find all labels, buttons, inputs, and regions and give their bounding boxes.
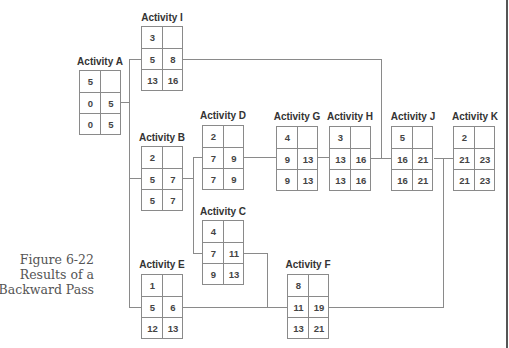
activity-a-label: Activity A: [70, 56, 130, 67]
early-finish: 6: [162, 296, 183, 317]
activity-b-label: Activity B: [132, 132, 192, 143]
activity-c-node: 4 7 11 9 13: [202, 220, 244, 285]
activity-f-label: Activity F: [278, 259, 338, 270]
late-finish: 7: [162, 189, 183, 210]
late-start: 0: [80, 113, 101, 134]
activity-g-node: 4 9 13 9 13: [276, 126, 318, 191]
early-start: 21: [454, 148, 475, 169]
late-finish: 5: [100, 113, 121, 134]
activity-j-label: Activity J: [383, 111, 443, 122]
blank-cell: [297, 127, 318, 148]
late-finish: 23: [474, 169, 495, 190]
connector-to-e: [129, 307, 141, 308]
connector-g-to-h: [318, 157, 329, 158]
connector-c-out: [244, 253, 267, 254]
duration: 3: [142, 27, 163, 48]
late-finish: 13: [162, 317, 183, 338]
connector-a-vertical: [129, 59, 130, 308]
activity-g-label: Activity G: [267, 111, 327, 122]
activity-k-label: Activity K: [445, 111, 505, 122]
blank-cell: [162, 27, 183, 48]
duration: 3: [330, 127, 351, 148]
late-start: 13: [142, 69, 163, 90]
late-finish: 13: [223, 263, 244, 284]
figure-caption: Figure 6-22 Results of a Backward Pass: [0, 252, 94, 297]
early-start: 5: [142, 296, 163, 317]
connector-c-vertical: [267, 253, 268, 308]
duration: 2: [203, 126, 224, 147]
caption-figure-number: Figure 6-22: [0, 252, 94, 267]
activity-c-label: Activity C: [193, 206, 253, 217]
late-start: 9: [277, 169, 298, 190]
early-finish: 11: [223, 242, 244, 263]
late-finish: 16: [162, 69, 183, 90]
late-start: 16: [392, 169, 413, 190]
connector-to-b: [129, 178, 141, 179]
early-finish: 7: [162, 168, 183, 189]
late-finish: 16: [350, 169, 371, 190]
connector-b-trunk: [183, 178, 193, 179]
activity-e-node: 1 5 6 12 13: [141, 274, 183, 339]
connector-a-trunk: [121, 102, 129, 103]
duration: 8: [288, 275, 309, 296]
early-start: 13: [330, 148, 351, 169]
late-start: 7: [203, 168, 224, 189]
early-finish: 13: [297, 148, 318, 169]
late-start: 9: [203, 263, 224, 284]
duration: 2: [142, 147, 163, 168]
early-finish: 5: [100, 92, 121, 113]
activity-e-label: Activity E: [132, 259, 192, 270]
activity-b-node: 2 5 7 5 7: [141, 146, 183, 211]
early-finish: 19: [308, 296, 329, 317]
connector-to-i: [129, 59, 141, 60]
page-edge-divider: [506, 0, 508, 348]
early-finish: 8: [162, 48, 183, 69]
connector-h-to-j: [371, 158, 391, 159]
early-start: 7: [203, 147, 224, 168]
late-start: 5: [142, 189, 163, 210]
activity-k-node: 2 21 23 21 23: [453, 126, 495, 191]
blank-cell: [474, 127, 495, 148]
early-start: 16: [392, 148, 413, 169]
early-start: 5: [142, 48, 163, 69]
network-diagram: Activity A 5 0 5 0 5 Activity I 3 5 8 13…: [0, 0, 509, 348]
early-finish: 9: [223, 147, 244, 168]
duration: 1: [142, 275, 163, 296]
blank-cell: [412, 127, 433, 148]
duration: 5: [392, 127, 413, 148]
activity-d-node: 2 7 9 7 9: [202, 125, 244, 190]
connector-d-to-g: [244, 157, 276, 158]
activity-a-node: 5 0 5 0 5: [79, 70, 121, 135]
duration: 4: [277, 127, 298, 148]
late-finish: 21: [308, 317, 329, 338]
activity-i-node: 3 5 8 13 16: [141, 26, 183, 91]
connector-e-to-f: [183, 307, 287, 308]
early-finish: 16: [350, 148, 371, 169]
activity-d-label: Activity D: [193, 110, 253, 121]
activity-h-node: 3 13 16 13 16: [329, 126, 371, 191]
early-start: 5: [142, 168, 163, 189]
late-start: 21: [454, 169, 475, 190]
caption-title-line1: Results of a: [0, 267, 94, 282]
activity-f-node: 8 11 19 13 21: [287, 274, 329, 339]
blank-cell: [100, 71, 121, 92]
late-finish: 21: [412, 169, 433, 190]
early-start: 7: [203, 242, 224, 263]
late-finish: 13: [297, 169, 318, 190]
blank-cell: [350, 127, 371, 148]
blank-cell: [162, 275, 183, 296]
connector-i-j-vertical: [381, 59, 382, 158]
late-start: 12: [142, 317, 163, 338]
connector-to-d: [193, 157, 202, 158]
late-finish: 9: [223, 168, 244, 189]
late-start: 13: [330, 169, 351, 190]
connector-f-k-vertical: [443, 158, 444, 308]
blank-cell: [162, 147, 183, 168]
blank-cell: [223, 221, 244, 242]
duration: 4: [203, 221, 224, 242]
late-start: 13: [288, 317, 309, 338]
early-start: 11: [288, 296, 309, 317]
connector-f-to-k: [329, 307, 443, 308]
early-start: 0: [80, 92, 101, 113]
activity-i-label: Activity I: [132, 12, 192, 23]
